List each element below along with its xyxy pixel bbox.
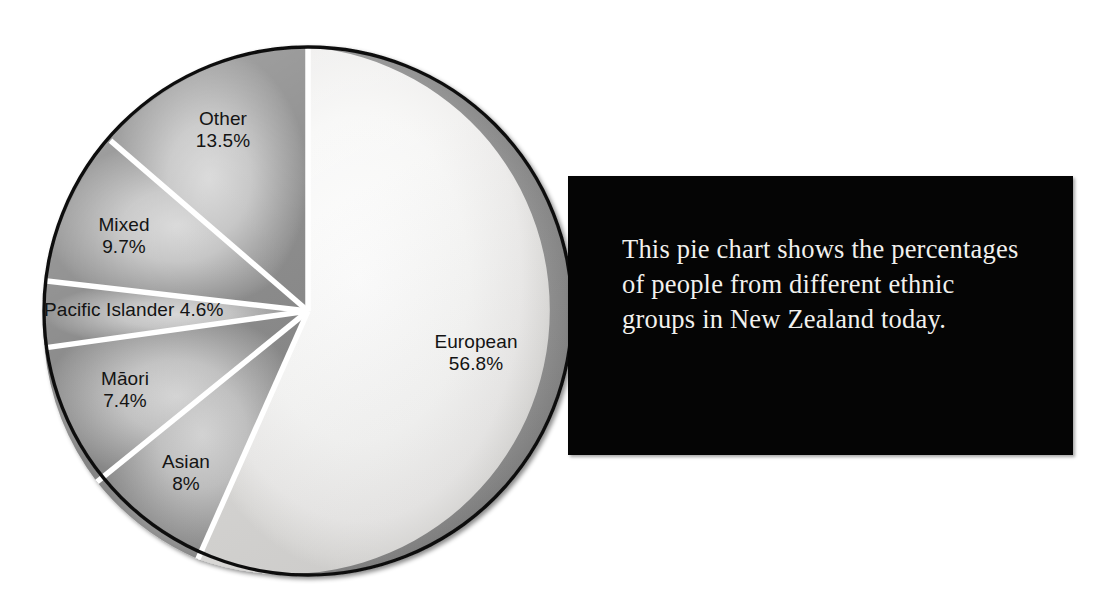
caption-box: This pie chart shows the percentages of … — [568, 176, 1073, 455]
slice-label-other: Other 13.5% — [186, 108, 260, 152]
slice-label-pacific-islander-name: Pacific Islander — [44, 299, 174, 320]
pie-chart: European 56.8% Asian 8% Māori 7.4% Pacif… — [0, 0, 600, 612]
slice-label-european-name: European — [424, 331, 528, 353]
caption-text: This pie chart shows the percentages of … — [622, 232, 1022, 337]
slice-label-mixed-value: 9.7% — [88, 236, 160, 258]
slice-label-pacific-islander: Pacific Islander 4.6% — [44, 299, 238, 321]
slice-label-european-value: 56.8% — [424, 353, 528, 375]
slice-label-european: European 56.8% — [424, 331, 528, 375]
slice-label-mixed: Mixed 9.7% — [88, 214, 160, 258]
slice-label-maori: Māori 7.4% — [90, 368, 160, 412]
slice-label-other-value: 13.5% — [186, 130, 260, 152]
slice-label-asian-value: 8% — [150, 473, 222, 495]
slice-label-maori-value: 7.4% — [90, 390, 160, 412]
pie-chart-figure: European 56.8% Asian 8% Māori 7.4% Pacif… — [0, 0, 1103, 612]
slice-label-asian: Asian 8% — [150, 451, 222, 495]
slice-label-mixed-name: Mixed — [88, 214, 160, 236]
slice-label-maori-name: Māori — [90, 368, 160, 390]
slice-label-pacific-islander-value: 4.6% — [180, 299, 224, 320]
slice-label-other-name: Other — [186, 108, 260, 130]
slice-label-asian-name: Asian — [150, 451, 222, 473]
